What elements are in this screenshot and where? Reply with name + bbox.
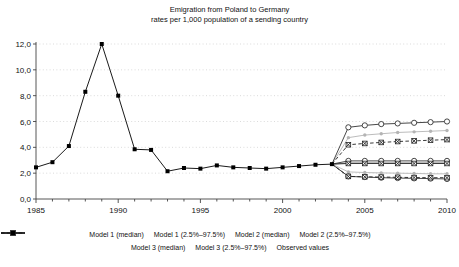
x-axis-tick-label: 1985 — [27, 206, 45, 215]
legend-item-label: Observed values — [276, 244, 330, 251]
y-axis-tick-label: 2,0 — [20, 169, 32, 178]
y-axis-tick-label: 4,0 — [20, 143, 32, 152]
x-axis-tick-label: 1995 — [192, 206, 210, 215]
y-axis-tick-label: 10,0 — [15, 66, 31, 75]
x-axis-tick-label: 2005 — [356, 206, 374, 215]
legend-item[interactable]: Model 2 (2.5%–97.5%) — [298, 231, 370, 238]
legend-row-2: Model 3 (median)Model 3 (2.5%–97.5%)Obse… — [0, 241, 459, 254]
legend-item-label: Model 2 (2.5%–97.5%) — [298, 231, 370, 238]
x-axis-tick-label: 2000 — [274, 206, 292, 215]
series-model-3-median — [332, 161, 449, 166]
chart-legend: Model 1 (median)Model 1 (2.5%–97.5%)Mode… — [0, 228, 459, 254]
legend-item-label: Model 1 (median) — [88, 231, 143, 238]
y-axis-tick-label: 6,0 — [20, 118, 32, 127]
legend-row-1: Model 1 (median)Model 1 (2.5%–97.5%)Mode… — [0, 228, 459, 241]
legend-item[interactable]: Model 1 (2.5%–97.5%) — [153, 231, 225, 238]
legend-item[interactable]: Model 3 (2.5%–97.5%) — [194, 244, 266, 251]
legend-item-label: Model 2 (median) — [234, 231, 289, 238]
x-axis-tick-label: 2010 — [438, 206, 456, 215]
legend-item-label: Model 3 (2.5%–97.5%) — [194, 244, 266, 251]
series-observed-values — [34, 42, 334, 173]
legend-item-label: Model 3 (median) — [130, 244, 185, 251]
y-axis-tick-label: 8,0 — [20, 92, 32, 101]
plot-area: 0,02,04,06,08,010,012,019851990199520002… — [0, 0, 459, 267]
legend-item[interactable]: Model 2 (median) — [234, 231, 289, 238]
x-axis-tick-label: 1990 — [109, 206, 127, 215]
legend-item-label: Model 1 (2.5%–97.5%) — [153, 231, 225, 238]
y-axis-tick-label: 12,0 — [15, 40, 31, 49]
y-axis-tick-label: 0,0 — [20, 195, 32, 204]
legend-marker-icon — [0, 228, 26, 238]
legend-item[interactable]: Observed values — [276, 244, 330, 251]
legend-item[interactable]: Model 3 (median) — [130, 244, 185, 251]
legend-item[interactable]: Model 1 (median) — [88, 231, 143, 238]
chart-figure: Emigration from Poland to Germany rates … — [0, 0, 459, 267]
